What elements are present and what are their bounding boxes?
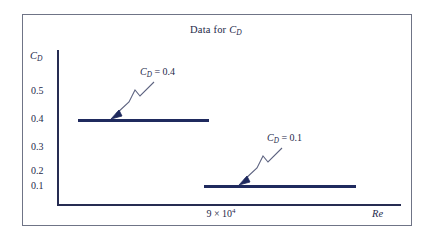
y-tick-label: 0.1 bbox=[31, 180, 53, 191]
chart-title-text: Data for bbox=[190, 24, 229, 35]
chart-figure: Data for CD CD 0.5 0.4 0.3 0.2 0.1 9 × 1… bbox=[0, 0, 432, 240]
annotation-variable: C bbox=[267, 132, 274, 143]
x-axis-label: Re bbox=[372, 208, 383, 219]
x-axis bbox=[57, 204, 401, 206]
y-tick-label: 0.2 bbox=[31, 165, 53, 176]
annotation-label-cd-0-1: CD = 0.1 bbox=[267, 132, 302, 145]
annotation-label-cd-0-4: CD = 0.4 bbox=[140, 66, 175, 79]
chart-title: Data for CD bbox=[0, 24, 432, 37]
y-axis-label: CD bbox=[30, 50, 42, 63]
annotation-leader-line bbox=[238, 146, 298, 191]
annotation-value: = 0.1 bbox=[279, 132, 302, 143]
y-axis-label-subscript: D bbox=[37, 54, 42, 63]
chart-title-subscript: D bbox=[236, 28, 242, 37]
annotation-value: = 0.4 bbox=[152, 66, 175, 77]
annotation-variable: C bbox=[140, 66, 147, 77]
y-tick-label: 0.4 bbox=[31, 113, 53, 124]
annotation-leader-line bbox=[110, 80, 170, 125]
y-tick-label: 0.3 bbox=[31, 141, 53, 152]
x-tick-mantissa: 9 × 10 bbox=[206, 208, 232, 219]
x-tick-label: 9 × 104 bbox=[178, 208, 264, 219]
y-axis-label-variable: C bbox=[30, 50, 37, 61]
y-tick-label: 0.5 bbox=[31, 85, 53, 96]
x-tick-exponent: 4 bbox=[232, 207, 236, 215]
y-axis bbox=[57, 50, 59, 206]
